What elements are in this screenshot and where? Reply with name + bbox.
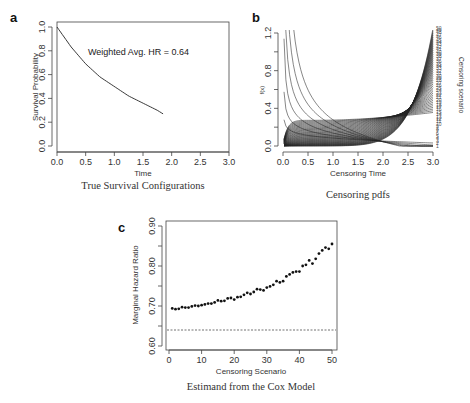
panel-a-letter: a — [10, 10, 18, 25]
panel-c-data-point — [187, 306, 190, 309]
panel-a-annotation: Weighted Avg. HR = 0.64 — [88, 47, 189, 57]
panel-b-x-tick-label: 1.5 — [352, 157, 365, 167]
panel-b-x-tick-label: 2.5 — [402, 157, 415, 167]
panel-c-frame — [166, 221, 337, 350]
panel-c-data-point — [291, 271, 294, 274]
panel-c-data-point — [295, 270, 298, 273]
panel-c-data-point — [298, 270, 301, 273]
panel-c-data-point — [324, 246, 327, 249]
panel-b-y-tick-label: 0.4 — [263, 102, 273, 115]
panel-c-data-point — [220, 300, 223, 303]
panel-c-data-point — [174, 308, 177, 311]
panel-c-data-point — [210, 302, 213, 305]
panel-c-data-point — [223, 299, 226, 302]
panel-c-x-tick-label: 30 — [262, 355, 272, 365]
panel-c-data-point — [243, 293, 246, 296]
panel-c-data-point — [282, 280, 285, 283]
panel-a-caption: True Survival Configurations — [81, 180, 204, 191]
panel-a-ylabel: Survival Probability — [31, 53, 40, 121]
panel-c-data-point — [252, 291, 255, 294]
panel-c-letter: c — [118, 220, 125, 235]
panel-c-data-point — [308, 259, 311, 262]
panel-c-data-point — [171, 307, 174, 310]
panel-b-caption: Censoring pdfs — [326, 189, 390, 200]
panel-b-censoring-curves — [284, 0, 433, 146]
panel-a-xlabel: Time — [134, 169, 152, 178]
panel-c-y-tick-label: 0.60 — [147, 337, 157, 355]
panel-b-scenario-labels: 1234567891011121314151617181920212223242… — [436, 25, 442, 149]
panel-c-data-point — [226, 297, 229, 300]
panel-b-x-tick-label: 0.5 — [302, 157, 315, 167]
panel-b-ylabel: f(x) — [259, 86, 265, 95]
panel-c-data-point — [233, 298, 236, 301]
panel-c-data-point — [275, 280, 278, 283]
panel-c-ylabel: Marginal Hazard Ratio — [131, 245, 140, 325]
panel-a-x-axis: 0.00.51.01.52.02.53.0 — [51, 152, 236, 167]
figure: a 0.00.20.40.60.81.0 0.00.51.01.52.02.53… — [0, 0, 470, 403]
panel-b-x-tick-label: 3.0 — [427, 157, 440, 167]
panel-c-data-point — [197, 305, 200, 308]
panel-c-data-point — [246, 291, 249, 294]
panel-c-x-tick-label: 20 — [229, 355, 239, 365]
panel-c-data-point — [321, 249, 324, 252]
panel-a-x-tick-label: 1.5 — [137, 157, 150, 167]
panel-c-data-point — [305, 263, 308, 266]
panel-b: b 0.00.40.81.2 0.00.51.01.52.02.53.0 f(x… — [252, 0, 465, 200]
panel-c-data-point — [249, 293, 252, 296]
panel-c-data-point — [207, 302, 210, 305]
panel-a-x-tick-label: 1.0 — [108, 157, 121, 167]
panel-b-xlabel: Censoring Time — [330, 169, 387, 178]
panel-c-data-point — [314, 257, 317, 260]
panel-c-data-point — [177, 307, 180, 310]
panel-c-x-tick-label: 0 — [166, 355, 171, 365]
panel-b-x-tick-label: 1.0 — [327, 157, 340, 167]
panel-b-side-label: Censoring scenario — [457, 57, 465, 113]
panel-b-letter: b — [252, 10, 260, 25]
panel-c-y-axis: 0.600.700.800.90 — [147, 217, 162, 355]
panel-c-data-point — [203, 303, 206, 306]
panel-c-data-point — [269, 285, 272, 288]
panel-b-y-axis: 0.00.40.81.2 — [263, 27, 278, 153]
panel-c-data-point — [311, 262, 314, 265]
panel-a-x-tick-label: 2.0 — [165, 157, 178, 167]
panel-c-data-point — [230, 297, 233, 300]
panel-c-data-point — [194, 304, 197, 307]
panel-b-x-tick-label: 0.0 — [277, 157, 290, 167]
panel-c-x-tick-label: 40 — [294, 355, 304, 365]
panel-c-data-point — [262, 289, 265, 292]
panel-c-data-point — [190, 305, 193, 308]
panel-c-data-point — [200, 304, 203, 307]
panel-c-data-point — [288, 273, 291, 276]
panel-c-x-tick-label: 50 — [327, 355, 337, 365]
panel-c-x-axis: 01020304050 — [166, 350, 337, 365]
panel-c-data-point — [272, 283, 275, 286]
panel-c-data-point — [259, 288, 262, 291]
panel-c-caption: Estimand from the Cox Model — [187, 381, 315, 392]
panel-c-data-point — [239, 295, 242, 298]
panel-a-survival-curve — [57, 27, 163, 114]
panel-c-data-point — [278, 281, 281, 284]
panel-c-data-point — [181, 306, 184, 309]
panel-c-data-point — [327, 247, 330, 250]
panel-c-x-tick-label: 10 — [197, 355, 207, 365]
panel-c-data-point — [217, 299, 220, 302]
panel-a-y-tick-label: 1.0 — [37, 21, 47, 34]
panel-b-y-tick-label: 1.2 — [263, 27, 273, 40]
panel-c-data-point — [265, 286, 268, 289]
panel-a-x-tick-label: 0.5 — [79, 157, 92, 167]
panel-b-x-tick-label: 2.0 — [377, 157, 390, 167]
panel-b-y-tick-label: 0.0 — [263, 140, 273, 153]
panel-c-data-point — [236, 296, 239, 299]
panel-c-data-point — [331, 243, 334, 246]
panel-a-x-tick-label: 3.0 — [223, 157, 236, 167]
panel-a: a 0.00.20.40.60.81.0 0.00.51.01.52.02.53… — [10, 10, 235, 191]
panel-c-points — [171, 243, 334, 311]
panel-b-x-axis: 0.00.51.01.52.02.53.0 — [277, 152, 440, 167]
panel-b-y-tick-label: 0.8 — [263, 64, 273, 77]
panel-c-data-point — [318, 252, 321, 255]
panel-a-x-tick-label: 0.0 — [51, 157, 64, 167]
panel-b-scenario-number: 50 — [436, 25, 442, 31]
panel-c-y-tick-label: 0.80 — [147, 257, 157, 275]
panel-c-data-point — [285, 275, 288, 278]
panel-c-data-point — [213, 301, 216, 304]
